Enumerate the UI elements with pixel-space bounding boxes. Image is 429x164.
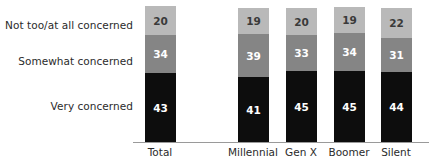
bar-total: 20 34 43 (145, 6, 176, 142)
segment-silent-not-concerned: 22 (381, 8, 412, 38)
bar-boomer: 19 34 45 (334, 7, 365, 142)
plot-area: 20 34 43 19 39 41 20 (0, 0, 429, 164)
value-total-not-concerned: 20 (145, 15, 176, 26)
value-boomer-not-concerned: 19 (334, 15, 365, 26)
value-millennial-somewhat: 39 (238, 50, 269, 61)
segment-boomer-somewhat: 34 (334, 33, 365, 71)
value-boomer-very: 45 (334, 101, 365, 112)
value-genx-somewhat: 33 (286, 48, 317, 59)
bar-gen-x: 20 33 45 (286, 8, 317, 142)
value-silent-somewhat: 31 (381, 50, 412, 61)
segment-genx-somewhat: 33 (286, 35, 317, 71)
value-boomer-somewhat: 34 (334, 47, 365, 58)
segment-total-not-concerned: 20 (145, 6, 176, 35)
segment-boomer-very: 45 (334, 71, 365, 142)
value-silent-not-concerned: 22 (381, 18, 412, 29)
value-total-very: 43 (145, 102, 176, 113)
segment-silent-somewhat: 31 (381, 38, 412, 72)
segment-millennial-somewhat: 39 (238, 34, 269, 77)
bar-silent: 22 31 44 (381, 8, 412, 142)
value-total-somewhat: 34 (145, 49, 176, 60)
value-millennial-very: 41 (238, 104, 269, 115)
bar-millennial: 19 39 41 (238, 8, 269, 142)
segment-genx-not-concerned: 20 (286, 8, 317, 35)
segment-millennial-very: 41 (238, 77, 269, 142)
value-silent-very: 44 (381, 102, 412, 113)
value-millennial-not-concerned: 19 (238, 16, 269, 27)
x-axis-line (133, 142, 429, 143)
stacked-bar-chart: Not too/at all concerned Somewhat concer… (0, 0, 429, 164)
x-label-silent: Silent (356, 146, 429, 159)
segment-boomer-not-concerned: 19 (334, 7, 365, 33)
segment-millennial-not-concerned: 19 (238, 8, 269, 34)
value-genx-very: 45 (286, 101, 317, 112)
segment-genx-very: 45 (286, 71, 317, 142)
segment-silent-very: 44 (381, 72, 412, 142)
x-label-total: Total (120, 146, 200, 159)
segment-total-very: 43 (145, 73, 176, 142)
segment-total-somewhat: 34 (145, 35, 176, 73)
value-genx-not-concerned: 20 (286, 16, 317, 27)
